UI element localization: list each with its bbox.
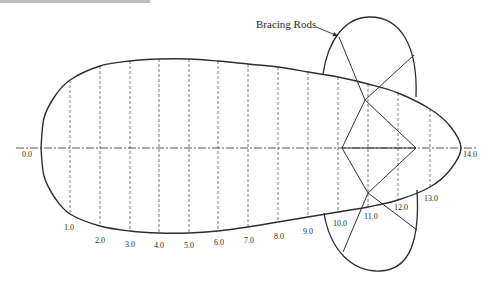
station-label: 1.0 (64, 223, 74, 232)
station-label: 8.0 (274, 232, 284, 241)
station-label: 0.0 (22, 150, 32, 159)
station-label: 3.0 (125, 240, 135, 249)
airship-station-diagram: 0.01.02.03.04.05.06.07.08.09.010.011.012… (0, 0, 495, 288)
station-labels: 0.01.02.03.04.05.06.07.08.09.010.011.012… (22, 150, 477, 250)
station-label: 12.0 (394, 203, 408, 212)
bracing-rods (339, 37, 417, 252)
station-label: 7.0 (244, 236, 254, 245)
bracing-rods-callout-label: Bracing Rods (256, 18, 316, 30)
station-label: 4.0 (154, 241, 164, 250)
station-label: 11.0 (364, 212, 378, 221)
top-cropped-caption (0, 0, 150, 3)
station-label: 6.0 (214, 238, 224, 247)
station-label: 5.0 (184, 241, 194, 250)
bracing-rod (339, 37, 365, 100)
station-label: 14.0 (463, 150, 477, 159)
station-label: 9.0 (303, 227, 313, 236)
station-label: 2.0 (95, 236, 105, 245)
callout-arrow (316, 27, 338, 36)
bracing-rod (365, 55, 414, 100)
station-label: 13.0 (424, 194, 438, 203)
station-lines (70, 59, 430, 233)
bracing-rod-diamond (342, 100, 416, 193)
station-label: 10.0 (333, 219, 347, 228)
